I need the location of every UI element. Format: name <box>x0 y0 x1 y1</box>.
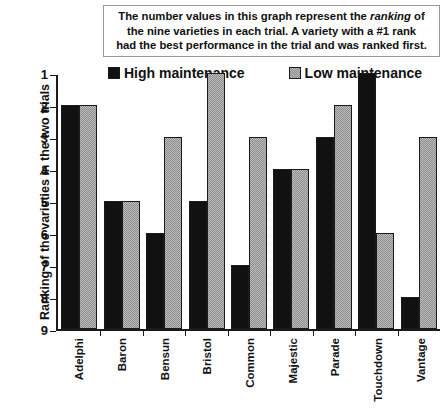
x-axis-tick <box>313 330 314 336</box>
x-axis-category-label: Bristol <box>201 338 213 374</box>
x-axis-label-cell: Bristol <box>186 338 229 414</box>
bar-high-maintenance <box>146 233 164 329</box>
bar-high-maintenance <box>358 73 376 329</box>
x-axis-tick <box>398 330 399 336</box>
x-axis-label-cell: Adelphi <box>58 338 101 414</box>
y-axis-tick <box>50 75 56 76</box>
x-axis-tick <box>270 330 271 336</box>
y-axis-tick <box>50 171 56 172</box>
x-axis-tick <box>355 330 356 336</box>
bar-high-maintenance <box>316 137 334 329</box>
bar-high-maintenance <box>61 105 79 329</box>
x-axis-label-cell: Common <box>229 338 272 414</box>
bar-low-maintenance <box>334 105 352 329</box>
bar-high-maintenance <box>231 265 249 329</box>
caption-box: The number values in this graph represen… <box>103 5 440 57</box>
plot-area: 123456789 <box>56 75 440 331</box>
bar-group <box>270 75 312 329</box>
x-axis-tick <box>228 330 229 336</box>
y-axis-tick <box>50 299 56 300</box>
y-axis-tick <box>50 267 56 268</box>
caption-line-1-post: of <box>411 10 425 22</box>
y-axis-tick <box>50 235 56 236</box>
x-axis-tick <box>143 330 144 336</box>
caption-line-2: the nine varieties in each trial. A vari… <box>127 24 416 39</box>
bar-low-maintenance <box>79 105 97 329</box>
y-axis-tick-label: 8 <box>30 291 48 306</box>
x-axis-tick <box>185 330 186 336</box>
y-axis-tick-label: 7 <box>30 259 48 274</box>
caption-line-1-pre: The number values in this graph represen… <box>118 10 370 22</box>
bar-low-maintenance <box>291 169 309 329</box>
bar-high-maintenance <box>273 169 291 329</box>
x-axis-category-label: Adelphi <box>73 338 85 380</box>
y-axis-tick-label: 4 <box>30 163 48 178</box>
x-axis-category-labels: AdelphiBaronBensunBristolCommonMajesticP… <box>58 338 442 414</box>
bar-group <box>398 75 440 329</box>
bar-high-maintenance <box>401 297 419 329</box>
bar-low-maintenance <box>164 137 182 329</box>
bar-group <box>185 75 227 329</box>
x-axis-tick <box>100 330 101 336</box>
bar-groups <box>58 75 440 329</box>
y-axis-tick <box>50 139 56 140</box>
y-axis-tick <box>50 107 56 108</box>
x-axis-category-label: Parade <box>329 338 341 376</box>
bar-high-maintenance <box>104 201 122 329</box>
x-axis-category-label: Vantage <box>415 338 427 382</box>
bar-group <box>228 75 270 329</box>
x-axis-category-label: Baron <box>116 338 128 371</box>
y-axis-tick-label: 6 <box>30 227 48 242</box>
bar-group <box>313 75 355 329</box>
y-axis-tick-label: 2 <box>30 99 48 114</box>
y-axis-tick-label: 1 <box>30 67 48 82</box>
x-axis-label-cell: Bensun <box>143 338 186 414</box>
x-axis-category-label: Majestic <box>287 338 299 383</box>
caption-line-3: had the best performance in the trial an… <box>116 38 427 53</box>
bar-low-maintenance <box>122 201 140 329</box>
x-axis-label-cell: Touchdown <box>357 338 400 414</box>
y-axis-tick <box>50 331 56 332</box>
x-axis-category-label: Touchdown <box>372 338 384 402</box>
x-axis-label-cell: Majestic <box>271 338 314 414</box>
x-axis-label-cell: Baron <box>101 338 144 414</box>
bar-group <box>100 75 142 329</box>
y-axis-tick-label: 9 <box>30 323 48 338</box>
x-axis-category-label: Bensun <box>159 338 171 380</box>
bar-group <box>355 75 397 329</box>
caption-line-1-emphasis: ranking <box>370 10 411 22</box>
x-axis-category-label: Common <box>244 338 256 388</box>
bar-low-maintenance <box>249 137 267 329</box>
bar-high-maintenance <box>189 201 207 329</box>
y-axis-tick-label: 3 <box>30 131 48 146</box>
y-axis-tick <box>50 203 56 204</box>
x-axis-label-cell: Vantage <box>399 338 442 414</box>
bar-low-maintenance <box>376 233 394 329</box>
caption-line-1: The number values in this graph represen… <box>118 9 424 24</box>
bar-group <box>143 75 185 329</box>
x-axis-label-cell: Parade <box>314 338 357 414</box>
y-axis-tick-label: 5 <box>30 195 48 210</box>
bar-low-maintenance <box>419 137 437 329</box>
x-axis-line <box>56 329 440 331</box>
bar-group <box>58 75 100 329</box>
bar-low-maintenance <box>207 73 225 329</box>
